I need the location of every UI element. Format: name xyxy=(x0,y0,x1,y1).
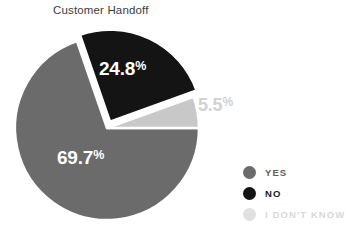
legend-label-no: NO xyxy=(265,188,281,199)
pie-chart-graphic xyxy=(0,18,240,236)
legend-swatch-no-icon xyxy=(243,187,256,200)
pie-label-yes: 69.7% xyxy=(57,148,104,167)
pie-label-i-dont-know-value: 5.5 xyxy=(198,95,222,115)
pie-label-yes-value: 69.7 xyxy=(57,147,93,168)
legend-label-yes: YES xyxy=(265,167,287,178)
legend-swatch-yes-icon xyxy=(243,166,256,179)
legend-item-i-dont-know[interactable]: I DON'T KNOW xyxy=(243,204,364,225)
pie-chart-panel: Customer Handoff 24.8% 69.7% 5.5% YES NO xyxy=(0,0,364,236)
pie-label-i-dont-know: 5.5% xyxy=(198,96,233,114)
pie-svg xyxy=(0,18,240,236)
chart-legend: YES NO I DON'T KNOW xyxy=(243,162,364,225)
legend-label-i-dont-know: I DON'T KNOW xyxy=(265,209,345,220)
legend-swatch-i-dont-know-icon xyxy=(243,208,256,221)
pie-label-no-unit: % xyxy=(135,59,146,73)
pie-label-no: 24.8% xyxy=(99,59,146,78)
chart-title: Customer Handoff xyxy=(53,4,149,16)
legend-item-no[interactable]: NO xyxy=(243,183,364,204)
pie-label-yes-unit: % xyxy=(93,148,104,162)
pie-label-i-dont-know-unit: % xyxy=(222,95,233,109)
legend-item-yes[interactable]: YES xyxy=(243,162,364,183)
pie-label-no-value: 24.8 xyxy=(99,58,135,79)
